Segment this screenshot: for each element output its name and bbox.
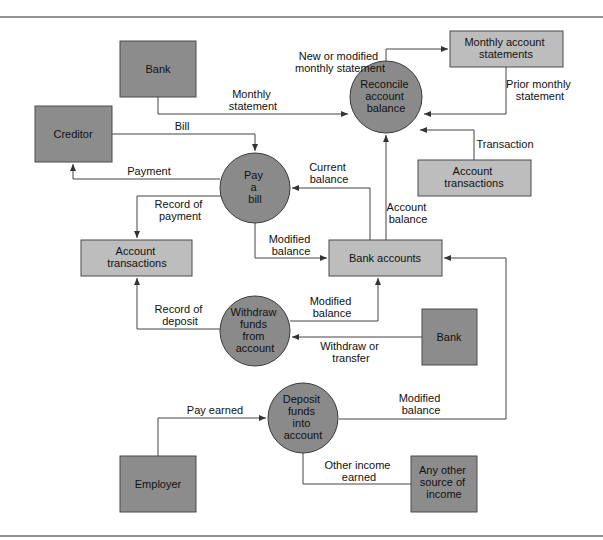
svg-text:Any other source of: Any other source of income	[419, 464, 469, 500]
data-flow-diagram: Bank Creditor Bank Employer Any other so…	[0, 0, 603, 540]
svg-text:Creditor: Creditor	[53, 128, 92, 140]
entity-label: Bank	[145, 63, 171, 75]
flow-label-account-balance: Account balance	[387, 201, 430, 225]
process-label: a	[250, 181, 257, 193]
svg-text:Account transactions: Account transactions	[107, 245, 167, 269]
process-label: account	[236, 342, 275, 354]
store-account-transactions-left: Account transactions	[81, 240, 192, 276]
flow-label-withdraw-transfer: Withdraw or transfer	[320, 340, 382, 364]
flow-label-prior-statement: Prior monthly statement	[506, 78, 574, 102]
svg-text:Bank: Bank	[145, 63, 171, 75]
entity-label: Creditor	[53, 128, 92, 140]
process-label: account	[284, 429, 323, 441]
process-label: bill	[248, 193, 261, 205]
process-pay-bill: Pay a bill	[220, 153, 290, 223]
process-label: Deposit	[283, 393, 320, 405]
store-bank-accounts: Bank accounts	[329, 240, 442, 276]
flow-prior-statement	[424, 67, 506, 114]
entity-bank-top: Bank	[120, 41, 196, 97]
store-label: Bank accounts	[349, 252, 422, 264]
process-label: funds	[288, 405, 315, 417]
flow-label-modified-balance-withdraw: Modified balance	[310, 295, 355, 319]
process-withdraw: Withdraw funds from account	[220, 296, 290, 366]
process-label: funds	[240, 318, 267, 330]
flow-label-modified-balance-deposit: Modified balance	[399, 392, 444, 416]
flow-bill	[112, 134, 255, 151]
process-label: Reconcile	[360, 78, 408, 90]
process-label: from	[242, 330, 264, 342]
store-label: transactions	[107, 257, 167, 269]
process-label: Pay	[244, 169, 263, 181]
entity-bank-right: Bank	[422, 309, 477, 365]
store-monthly-statements: Monthly account statements	[450, 31, 563, 67]
store-label: transactions	[444, 177, 504, 189]
entity-label: income	[426, 488, 461, 500]
flow-transaction	[420, 130, 474, 160]
svg-text:Bank: Bank	[436, 331, 462, 343]
flow-label-current-balance: Current balance	[309, 161, 349, 185]
flow-label-payment: Payment	[127, 165, 170, 177]
entity-other-source: Any other source of income	[411, 456, 477, 512]
process-label: into	[293, 417, 311, 429]
flow-pay-earned	[158, 418, 266, 456]
entity-label: Employer	[135, 478, 182, 490]
store-label: Account	[116, 245, 156, 257]
store-label: Account	[453, 165, 493, 177]
entity-label: Any other	[419, 464, 466, 476]
store-label: Monthly account	[464, 36, 544, 48]
process-label: balance	[367, 102, 406, 114]
flow-label-new-modified-statement: New or modified monthly statement	[295, 50, 385, 74]
entity-label: Bank	[436, 331, 462, 343]
svg-text:Employer: Employer	[135, 478, 182, 490]
svg-text:Account transactions: Account transactions	[444, 165, 504, 189]
flow-label-record-deposit: Record of deposit	[155, 303, 206, 327]
process-label: Withdraw	[231, 306, 277, 318]
entity-creditor: Creditor	[35, 106, 112, 162]
store-account-transactions-right: Account transactions	[418, 160, 531, 196]
flow-label-transaction: Transaction	[476, 138, 533, 150]
svg-text:Bank accounts: Bank accounts	[349, 252, 422, 264]
flow-label-record-payment: Record of payment	[155, 198, 206, 222]
entity-label: source of	[420, 476, 466, 488]
flow-label-monthly-statement: Monthly statement	[229, 88, 277, 112]
process-deposit: Deposit funds into account	[268, 383, 338, 453]
flow-label-modified-balance-pay: Modified balance	[269, 233, 314, 257]
entity-employer: Employer	[120, 456, 196, 512]
flow-label-bill: Bill	[175, 120, 190, 132]
svg-text:Reconcile account: Reconcile account balance	[360, 78, 411, 114]
flow-label-other-income: Other income earned	[324, 459, 393, 483]
flow-new-modified-statement	[386, 49, 448, 61]
flow-label-pay-earned: Pay earned	[187, 404, 243, 416]
store-label: statements	[479, 48, 533, 60]
process-label: account	[365, 90, 404, 102]
